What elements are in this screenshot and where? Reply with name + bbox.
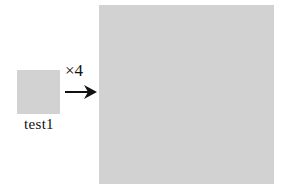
right-arrow-icon: [64, 84, 98, 100]
upscaled-image-square: [99, 5, 274, 184]
source-image-square: [17, 70, 60, 114]
scale-factor-label: ×4: [65, 61, 83, 81]
source-image-label: test1: [14, 116, 64, 133]
